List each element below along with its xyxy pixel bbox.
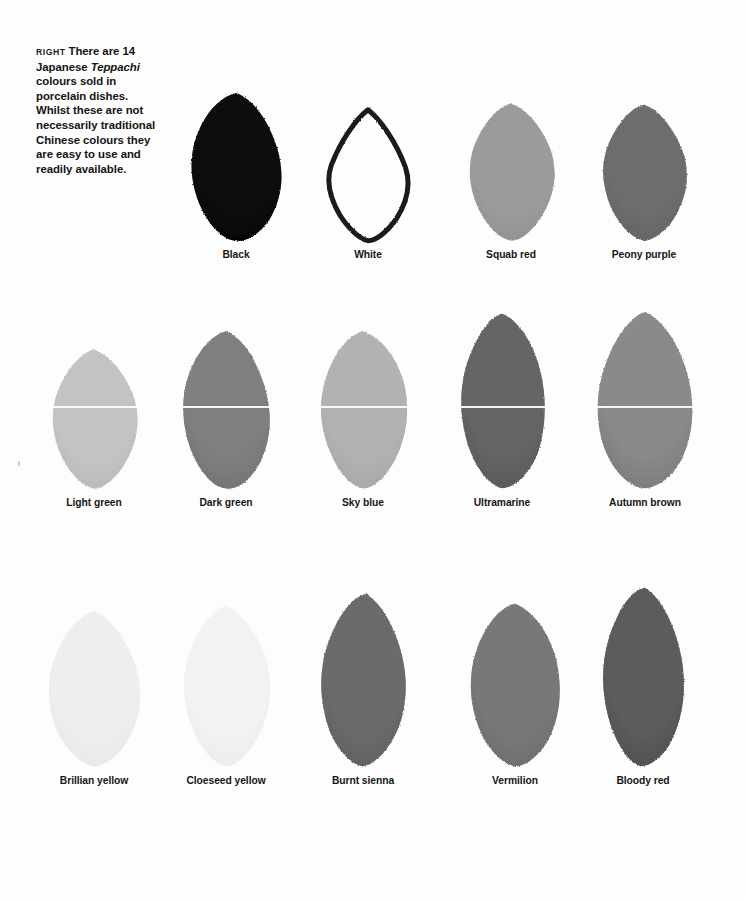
colour-swatch-cell[interactable]: Sky blue <box>290 330 436 508</box>
paint-blob <box>44 348 144 490</box>
swatch-shape <box>175 604 277 768</box>
swatch-label: Bloody red <box>568 775 718 786</box>
paint-blob <box>175 604 277 768</box>
swatch-image <box>568 608 718 768</box>
paint-blob <box>461 102 561 242</box>
colour-swatch-cell[interactable]: Brillian yellow <box>19 608 169 786</box>
swatch-image <box>153 330 299 490</box>
swatch-shape <box>321 107 415 242</box>
paint-blob <box>591 310 699 490</box>
swatch-shape <box>174 328 278 490</box>
colour-swatch-cell[interactable]: Black <box>161 82 311 260</box>
plate-page: RIGHTThere are 14 Japanese Teppachi colo… <box>0 0 745 900</box>
caption-line-2-pre: Japanese <box>36 61 91 73</box>
swatch-image <box>161 82 311 242</box>
swatch-shape <box>594 102 694 242</box>
caption-line-1: There are 14 <box>68 45 135 57</box>
swatch-label: White <box>293 249 443 260</box>
swatch-image <box>151 608 301 768</box>
paint-blob <box>313 330 413 490</box>
swatch-shape <box>40 608 148 768</box>
swatch-label: Ultramarine <box>429 497 575 508</box>
swatch-image <box>21 330 167 490</box>
swatch-image <box>429 330 575 490</box>
paint-blob <box>174 328 278 490</box>
swatch-shape <box>463 602 567 768</box>
paint-blob <box>182 90 290 242</box>
colour-swatch-cell[interactable]: Squab red <box>436 82 586 260</box>
swatch-image <box>288 608 438 768</box>
caption-block: RIGHTThere are 14 Japanese Teppachi colo… <box>36 44 158 176</box>
colour-swatch-cell[interactable]: Bloody red <box>568 608 718 786</box>
paint-blob <box>594 586 692 768</box>
colour-swatch-cell[interactable]: Light green <box>21 330 167 508</box>
colour-swatch-cell[interactable]: Dark green <box>153 330 299 508</box>
swatch-image <box>293 82 443 242</box>
swatch-label: Autumn brown <box>572 497 718 508</box>
swatch-shape <box>461 102 561 242</box>
paint-blob <box>312 592 414 768</box>
paint-blob <box>594 102 694 242</box>
swatch-image <box>19 608 169 768</box>
swatch-shape <box>453 312 551 490</box>
swatch-shape <box>594 586 692 768</box>
paint-blob <box>463 602 567 768</box>
paint-blob <box>321 107 415 242</box>
swatch-label: Black <box>161 249 311 260</box>
swatch-label: Squab red <box>436 249 586 260</box>
colour-swatch-cell[interactable]: Burnt sienna <box>288 608 438 786</box>
colour-swatch-cell[interactable]: Peony purple <box>569 82 719 260</box>
swatch-label: Sky blue <box>290 497 436 508</box>
swatch-label: Cloeseed yellow <box>151 775 301 786</box>
swatch-shape <box>182 90 290 242</box>
paint-blob <box>40 608 148 768</box>
swatch-label: Peony purple <box>569 249 719 260</box>
swatch-label: Burnt sienna <box>288 775 438 786</box>
caption-body: colours sold in porcelain dishes. Whilst… <box>36 75 155 175</box>
swatch-label: Dark green <box>153 497 299 508</box>
swatch-image <box>572 330 718 490</box>
swatch-shape <box>312 592 414 768</box>
page-speck <box>18 461 20 466</box>
colour-swatch-cell[interactable]: White <box>293 82 443 260</box>
colour-swatch-cell[interactable]: Autumn brown <box>572 330 718 508</box>
swatch-shape <box>44 348 144 490</box>
paint-blob <box>453 312 551 490</box>
swatch-shape <box>591 310 699 490</box>
swatch-image <box>290 330 436 490</box>
caption-italic-term: Teppachi <box>91 61 140 73</box>
colour-swatch-cell[interactable]: Cloeseed yellow <box>151 608 301 786</box>
caption-kicker: RIGHT <box>36 47 68 57</box>
swatch-image <box>569 82 719 242</box>
swatch-label: Light green <box>21 497 167 508</box>
swatch-shape <box>313 330 413 490</box>
swatch-image <box>436 82 586 242</box>
swatch-label: Brillian yellow <box>19 775 169 786</box>
colour-swatch-cell[interactable]: Ultramarine <box>429 330 575 508</box>
